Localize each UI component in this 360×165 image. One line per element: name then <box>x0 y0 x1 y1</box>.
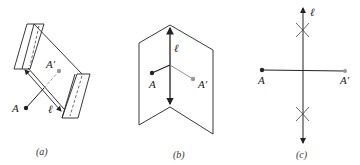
point-a-prime <box>343 69 347 73</box>
segment-a-a-prime <box>262 70 345 71</box>
panel-a: A A′ ℓ (a) <box>11 24 90 158</box>
point-a <box>260 68 264 72</box>
label-a-prime: A′ <box>197 78 208 90</box>
label-a: A <box>148 78 156 90</box>
left-plane <box>139 25 170 125</box>
caption-a: (a) <box>36 146 48 158</box>
point-a-prime <box>191 77 195 81</box>
point-a <box>150 71 154 75</box>
point-a-prime <box>57 69 61 73</box>
label-l: ℓ <box>174 42 179 54</box>
label-a: A <box>257 74 265 86</box>
segment-a-prime <box>44 71 59 88</box>
label-l: ℓ <box>310 6 315 18</box>
upper-mirror <box>14 24 44 69</box>
caption-c: (c) <box>296 149 308 161</box>
point-a <box>24 106 28 110</box>
label-a: A <box>11 102 19 114</box>
line-l <box>25 68 64 111</box>
plane-edge <box>34 24 82 74</box>
reflection-figure: A A′ ℓ (a) A A′ ℓ (b) <box>0 0 360 165</box>
lower-mirror <box>62 74 90 118</box>
segment-a <box>152 65 170 73</box>
panel-c: A A′ ℓ (c) <box>257 6 350 161</box>
caption-b: (b) <box>173 149 185 161</box>
segment-a <box>26 88 44 108</box>
label-l: ℓ <box>48 103 53 115</box>
label-a-prime: A′ <box>339 74 350 86</box>
label-a-prime: A′ <box>45 58 56 70</box>
segment-a-prime <box>170 65 193 79</box>
panel-b: A A′ ℓ (b) <box>139 25 213 161</box>
